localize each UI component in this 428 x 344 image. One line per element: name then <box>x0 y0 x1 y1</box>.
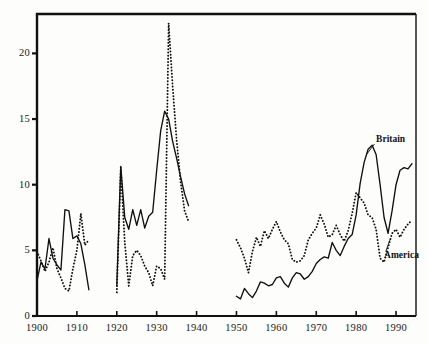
x-tick-1900: 1900 <box>21 322 53 333</box>
y-tick-0: 0 <box>6 310 30 321</box>
series-label-america: America <box>384 250 419 260</box>
x-tick-1960: 1960 <box>260 322 292 333</box>
x-tick-1940: 1940 <box>181 322 213 333</box>
x-tick-1980: 1980 <box>340 322 372 333</box>
chart-figure: 1900191019201930194019501960197019801990… <box>0 0 428 344</box>
series-america-segment-1 <box>37 214 89 291</box>
y-tick-10: 10 <box>6 179 30 190</box>
chart-canvas <box>0 0 428 344</box>
x-tick-1910: 1910 <box>61 322 93 333</box>
series-britain-segment-2 <box>117 111 189 286</box>
x-tick-1920: 1920 <box>101 322 133 333</box>
series-america-segment-3 <box>236 193 412 273</box>
series-britain <box>37 111 412 299</box>
y-tick-5: 5 <box>6 244 30 255</box>
series-america <box>37 23 412 292</box>
annotation-leader-lines <box>367 144 391 252</box>
x-tick-1990: 1990 <box>380 322 412 333</box>
series-america-segment-2 <box>117 23 189 292</box>
series-label-britain: Britain <box>376 134 405 144</box>
y-tick-15: 15 <box>6 113 30 124</box>
x-tick-1930: 1930 <box>141 322 173 333</box>
series-britain-segment-1 <box>37 210 89 290</box>
series-britain-segment-3 <box>236 145 412 299</box>
chart-series-group <box>37 23 412 299</box>
x-tick-1970: 1970 <box>300 322 332 333</box>
chart-frame <box>37 14 416 316</box>
y-tick-20: 20 <box>6 47 30 58</box>
x-tick-1950: 1950 <box>220 322 252 333</box>
